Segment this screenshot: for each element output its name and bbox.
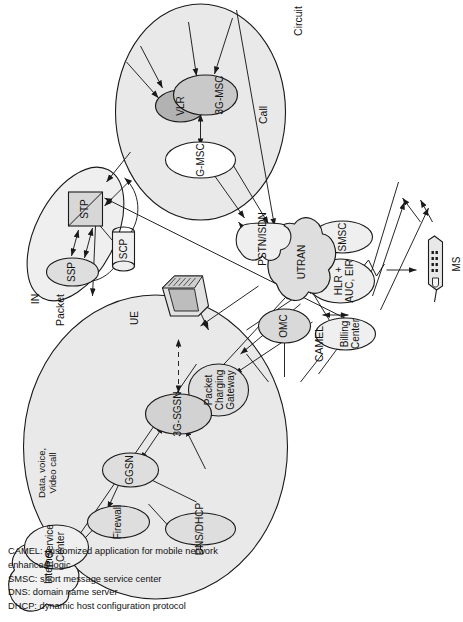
legend-item-dns: DNS: domain name server: [8, 586, 258, 600]
legend: CAMEL: customized application for mobile…: [8, 545, 258, 614]
legend-item-dhcp: DHCP: dynamic host configuration protoco…: [8, 600, 258, 614]
diagram-canvas: Internet OMC Firewall DNS/DHCP GGSN IP S…: [0, 0, 463, 622]
legend-item-smsc: SMSC: short message service center: [8, 573, 258, 587]
legend-layer: CAMEL: customized application for mobile…: [0, 0, 463, 622]
legend-item-camel: CAMEL: customized application for mobile…: [8, 545, 258, 573]
